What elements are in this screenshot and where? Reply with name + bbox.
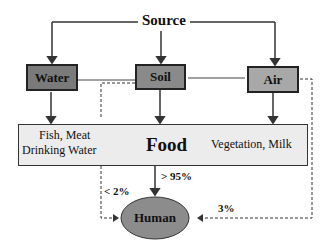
- food-label: Food: [146, 134, 187, 156]
- soil-node: Soil: [135, 64, 186, 90]
- food-to-human-percent: > 95%: [161, 170, 192, 182]
- food-left-line1: Fish, Meat: [39, 128, 90, 143]
- water-label: Water: [35, 70, 70, 86]
- human-label: Human: [134, 210, 176, 226]
- air-to-human-percent: 3%: [218, 202, 235, 214]
- soil-to-human-percent: < 2%: [104, 185, 130, 197]
- food-left-line2: Drinking Water: [22, 143, 96, 158]
- source-label: Source: [142, 12, 186, 29]
- water-node: Water: [26, 64, 78, 91]
- soil-label: Soil: [150, 69, 171, 85]
- food-right-label: Vegetation, Milk: [211, 137, 292, 152]
- air-node: Air: [247, 66, 299, 93]
- food-node: Fish, Meat Drinking Water Food Vegetatio…: [18, 124, 308, 166]
- air-label: Air: [264, 72, 283, 88]
